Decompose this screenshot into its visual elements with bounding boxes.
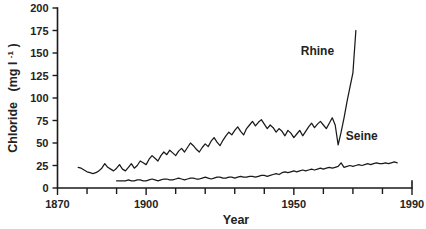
y-axis-title-unit: (mg l [6, 62, 20, 92]
y-tick-label: 50 [36, 137, 48, 149]
y-tick-label: 175 [30, 25, 48, 37]
y-tick-label: 125 [30, 70, 48, 82]
x-tick-label: 1990 [400, 198, 424, 210]
y-tick-label: 0 [42, 182, 48, 194]
series-annotations: RhineSeine [301, 44, 378, 144]
y-tick-label: 150 [30, 47, 48, 59]
series-label-seine: Seine [346, 129, 378, 143]
y-tick-label: 25 [36, 160, 48, 172]
y-tick-label: 200 [30, 2, 48, 14]
y-axis-title: Chloride (mg l -1 ) [2, 43, 20, 152]
chart-figure: 0255075100125150175200 1870190019501990 … [0, 0, 426, 229]
series-label-rhine: Rhine [301, 44, 335, 58]
y-axis-ticks: 0255075100125150175200 [30, 2, 57, 194]
series-line-seine [117, 162, 398, 181]
x-tick-label: 1900 [134, 198, 158, 210]
axis-spines [58, 8, 413, 188]
x-axis-ticks: 1870190019501990 [45, 188, 424, 210]
y-axis-title-unit-close: ) [6, 43, 20, 47]
x-tick-label: 1870 [45, 198, 69, 210]
x-tick-label: 1950 [282, 198, 306, 210]
series-lines [78, 31, 397, 181]
x-axis-title: Year [223, 213, 250, 227]
y-axis-title-main: Chloride [6, 102, 20, 153]
y-tick-label: 100 [30, 92, 48, 104]
y-axis-title-superscript: -1 [6, 50, 15, 58]
y-tick-label: 75 [36, 115, 48, 127]
